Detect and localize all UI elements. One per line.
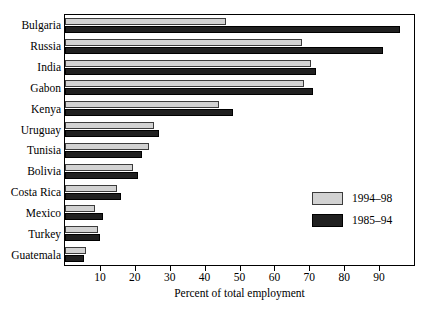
x-tick-label: 70 — [294, 271, 324, 284]
category-label: Bulgaria — [0, 19, 61, 31]
bar — [65, 247, 86, 254]
bar — [65, 26, 400, 33]
category-label: Gabon — [0, 82, 61, 94]
category-label: Guatemala — [0, 249, 61, 261]
bar-group — [65, 98, 414, 119]
bar — [65, 226, 98, 233]
x-tick-label: 80 — [329, 271, 359, 284]
bar-group — [65, 36, 414, 57]
x-tick-label: 10 — [85, 271, 115, 284]
value-axis: 102030405060708090 — [0, 266, 431, 286]
x-tick-label: 90 — [364, 271, 394, 284]
category-label: Tunisia — [0, 144, 61, 156]
bar-group — [65, 57, 414, 78]
category-label: India — [0, 61, 61, 73]
category-axis-labels: BulgariaRussiaIndiaGabonKenyaUruguayTuni… — [0, 15, 61, 265]
category-label: Russia — [0, 40, 61, 52]
bar-chart: BulgariaRussiaIndiaGabonKenyaUruguayTuni… — [0, 0, 431, 315]
x-tick-label: 40 — [190, 271, 220, 284]
bar — [65, 68, 316, 75]
category-label: Turkey — [0, 228, 61, 240]
bar — [65, 151, 142, 158]
bar-group — [65, 15, 414, 36]
bar-group — [65, 244, 414, 265]
bar — [65, 185, 117, 192]
x-tick-label: 30 — [155, 271, 185, 284]
x-axis-title: Percent of total employment — [64, 287, 415, 300]
bar-group — [65, 119, 414, 140]
legend-item: 1994–98 — [312, 191, 408, 208]
bar — [65, 47, 383, 54]
category-label: Mexico — [0, 207, 61, 219]
legend-label: 1985–94 — [352, 213, 392, 228]
bar — [65, 255, 84, 262]
bar — [65, 213, 103, 220]
chart-legend: 1994–981985–94 — [312, 191, 408, 235]
bar — [65, 109, 233, 116]
bar — [65, 164, 133, 171]
bar — [65, 18, 226, 25]
bar — [65, 60, 311, 67]
bar-group — [65, 140, 414, 161]
bar — [65, 101, 219, 108]
bar-group — [65, 78, 414, 99]
x-tick-label: 50 — [225, 271, 255, 284]
bar — [65, 39, 302, 46]
bar — [65, 80, 304, 87]
category-label: Uruguay — [0, 124, 61, 136]
legend-item: 1985–94 — [312, 213, 408, 230]
category-label: Costa Rica — [0, 186, 61, 198]
bar — [65, 143, 149, 150]
category-label: Bolivia — [0, 165, 61, 177]
x-tick-label: 20 — [120, 271, 150, 284]
legend-swatch — [312, 192, 343, 205]
x-tick-label: 60 — [259, 271, 289, 284]
bar — [65, 172, 138, 179]
legend-label: 1994–98 — [352, 191, 392, 206]
category-label: Kenya — [0, 103, 61, 115]
bar-group — [65, 161, 414, 182]
bar — [65, 88, 313, 95]
bar — [65, 193, 121, 200]
legend-swatch — [312, 214, 343, 227]
bar — [65, 234, 100, 241]
bar — [65, 122, 154, 129]
bar — [65, 130, 159, 137]
bar — [65, 205, 95, 212]
